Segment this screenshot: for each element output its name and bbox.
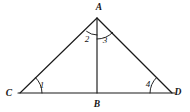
- vertex-label-d: D: [174, 87, 182, 97]
- angle-label-1: 1: [40, 80, 45, 90]
- geometry-diagram: A C D B 1 2 3 4: [0, 0, 190, 112]
- vertex-label-c: C: [6, 88, 13, 98]
- angle-arc-4: [150, 78, 157, 93]
- figure-canvas: A C D B 1 2 3 4: [0, 0, 190, 112]
- angle-label-3: 3: [102, 35, 108, 45]
- angle-label-2: 2: [85, 34, 90, 44]
- vertex-label-b: B: [93, 99, 100, 109]
- side-ad-segment: [97, 18, 172, 93]
- vertex-label-a: A: [95, 2, 102, 12]
- side-ca-segment: [20, 18, 97, 93]
- angle-label-4: 4: [146, 79, 151, 89]
